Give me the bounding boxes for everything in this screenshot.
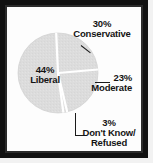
- leader-line-dontknow-vertical: [75, 113, 76, 135]
- slice-label-moderate: 23% Moderate: [86, 73, 132, 93]
- slice-name-moderate: Moderate: [86, 83, 132, 93]
- slice-name-dontknow-line2: Refused: [83, 138, 136, 148]
- slice-label-dontknow: 3% Don't Know/ Refused: [83, 118, 136, 148]
- pie-chart-screenshot: 30% Conservative 23% Moderate 3% Don't K…: [0, 0, 153, 163]
- slice-name-conservative: Conservative: [73, 29, 130, 39]
- slice-name-liberal: Liberal: [30, 75, 60, 85]
- slice-label-conservative: 30% Conservative: [73, 19, 130, 39]
- slice-label-liberal: 44% Liberal: [30, 65, 60, 85]
- chart-plot-area: 30% Conservative 23% Moderate 3% Don't K…: [7, 7, 141, 151]
